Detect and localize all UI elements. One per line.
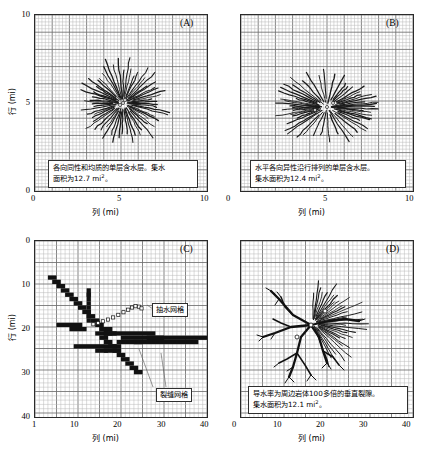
panel-a-caption-line2-pre: 面积为12.7 mi (53, 175, 101, 184)
panel-c-xtick-20: 20 (113, 419, 122, 429)
panel-c-x-axis-title: 列 (mi) (92, 432, 119, 443)
panel-b-x-axis-title: 列 (mi) (298, 206, 325, 217)
callout-fracture-grid: 裂缝网格 (156, 388, 192, 402)
panel-a-caption-line1: 各向同性和均质的单层含水层。集水 (53, 163, 194, 173)
panel-b-caption-line2-pre: 集水面积为12.4 mi (255, 175, 317, 184)
panel-d-caption: 导水率为周边岩体100多倍的垂直裂隙。 集水面积为12.1 mi2。 (248, 386, 408, 414)
panel-b-caption-line1: 水平各向异性沿行排列的单层含水层。 (255, 163, 402, 173)
panel-c-ytick-10: 10 (12, 279, 30, 289)
panel-c-y-axis-title: 行 (mi) (6, 305, 17, 351)
four-panel-groundwater-figure: (A) 各向同性和均质的单层含水层。集水 面积为12.7 mi2。 10 5 0… (0, 0, 421, 454)
panel-d-caption-line1: 导水率为周边岩体100多倍的垂直裂隙。 (253, 389, 404, 399)
panel-a-xtick-5: 5 (117, 193, 121, 203)
panel-d-caption-line2: 集水面积为12.1 mi2。 (253, 399, 404, 411)
panel-d-letter: (D) (386, 244, 399, 254)
panel-b-caption-line2-post: 。 (321, 175, 328, 184)
panel-c-ytick-40: 40 (12, 411, 30, 421)
panel-a-xtick-0: 0 (31, 193, 35, 203)
panel-b-caption-line2: 集水面积为12.4 mi2。 (255, 173, 402, 185)
panel-c-xtick-30: 30 (157, 419, 166, 429)
panel-d-xtick-0: 0 (232, 419, 236, 429)
panel-a-ytick-0: 0 (12, 185, 30, 195)
panel-c-xtick-1: 1 (32, 419, 36, 429)
panel-c-ytick-30: 30 (12, 367, 30, 377)
panel-b-caption: 水平各向异性沿行排列的单层含水层。 集水面积为12.4 mi2。 (250, 160, 406, 188)
panel-a-ytick-10: 10 (12, 9, 30, 19)
panel-d-caption-line2-post: 。 (319, 401, 326, 410)
panel-d-xtick-10: 10 (273, 419, 282, 429)
panel-b-letter: (B) (386, 18, 399, 28)
panel-d-xtick-20: 20 (316, 419, 325, 429)
panel-a-caption-line2: 面积为12.7 mi2。 (53, 173, 194, 185)
panel-b-xtick-5: 5 (323, 193, 327, 203)
callout-pumping-grid: 抽水网格 (152, 303, 188, 317)
panel-c-xtick-10: 10 (70, 419, 79, 429)
panel-b-xtick-10: 10 (405, 193, 414, 203)
panel-a-caption-line2-post: 。 (105, 175, 112, 184)
panel-d-caption-line2-pre: 集水面积为12.1 mi (253, 401, 315, 410)
panel-b-xtick-0: 0 (226, 193, 230, 203)
panel-a-letter: (A) (180, 18, 193, 28)
panel-a-y-axis-title: 行 (mi) (6, 79, 17, 125)
panel-d-x-axis-title: 列 (mi) (298, 432, 325, 443)
panel-a-xtick-10: 10 (200, 193, 209, 203)
panel-d-xtick-40: 40 (402, 419, 411, 429)
panel-d-xtick-30: 30 (359, 419, 368, 429)
panel-c-letter: (C) (180, 244, 193, 254)
panel-a-x-axis-title: 列 (mi) (92, 206, 119, 217)
panel-c-xtick-40: 40 (200, 419, 209, 429)
panel-c-ytick-0: 0 (12, 235, 30, 245)
panel-a-caption: 各向同性和均质的单层含水层。集水 面积为12.7 mi2。 (48, 160, 198, 188)
